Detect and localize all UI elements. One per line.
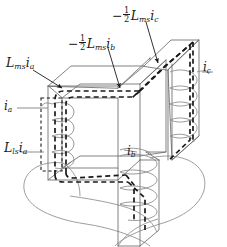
label-half-lms-ic-L: L — [131, 8, 139, 23]
label-lls-ia: Llsia — [4, 142, 27, 156]
label-half-lms-ic-den: 2 — [123, 14, 130, 23]
label-lms-ia-i-sub: a — [30, 62, 35, 71]
label-lls-ia-i-sub: a — [23, 147, 28, 156]
magnetizing-flux-path — [55, 91, 145, 232]
label-half-lms-ib-L: L — [87, 36, 95, 51]
right-window-inner — [146, 60, 166, 152]
label-ic: ic — [203, 61, 211, 75]
label-half-lms-ic-fraction: 12 — [123, 6, 130, 24]
label-half-lms-ic-i-sub: c — [154, 15, 158, 24]
right-limb-bottom — [172, 136, 199, 160]
label-half-lms-ic-num: 1 — [123, 6, 130, 14]
label-half-lms-ib-sign: − — [68, 36, 78, 51]
leader-half-lms-ic — [146, 22, 158, 63]
label-lms-ia-L-sub: ms — [14, 62, 25, 71]
right-limb-face — [168, 40, 199, 160]
label-lms-ia: Lmsia — [6, 57, 34, 71]
coil-a — [42, 102, 74, 168]
right-yoke-front-upper — [118, 58, 150, 88]
label-half-lms-ic: −12Lmsic — [112, 6, 159, 24]
leakage-flux-swoosh — [24, 156, 205, 246]
leader-lms-ia — [33, 70, 62, 88]
flux-path-right — [133, 42, 193, 161]
label-half-lms-ic-L-sub: ms — [139, 15, 150, 24]
label-half-lms-ib-i-sub: b — [110, 43, 115, 52]
label-half-lms-ib-L-sub: ms — [95, 43, 106, 52]
label-ic-sub: c — [207, 66, 211, 75]
label-ia: ia — [4, 100, 12, 114]
leader-lines — [33, 22, 158, 88]
label-half-lms-ib: −12Lmsib — [68, 34, 115, 52]
label-ia-sub: a — [8, 105, 12, 114]
label-ib: ib — [127, 145, 136, 159]
label-half-lms-ib-fraction: 12 — [79, 34, 86, 52]
transformer-core-diagram: Lmsia −12Lmsib −12Lmsic ia Llsia ic ib — [0, 0, 227, 247]
label-half-lms-ib-den: 2 — [79, 42, 86, 51]
label-ib-sub: b — [131, 150, 136, 159]
label-half-lms-ib-num: 1 — [79, 34, 86, 42]
label-half-lms-ic-sign: − — [112, 8, 122, 23]
leader-half-lms-ib — [108, 48, 120, 88]
coil-b — [120, 148, 157, 220]
core-outline — [48, 40, 199, 246]
left-limb-front — [48, 86, 118, 180]
